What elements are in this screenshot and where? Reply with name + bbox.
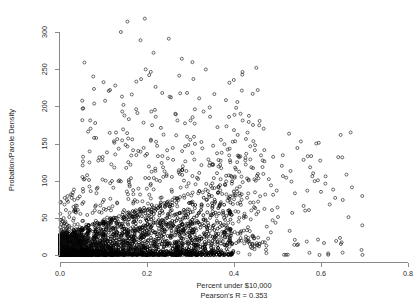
data-point: [161, 155, 164, 158]
data-point: [97, 159, 100, 162]
data-point: [174, 113, 177, 116]
data-point: [88, 178, 91, 181]
data-point: [193, 122, 196, 125]
data-point: [142, 146, 145, 149]
data-point: [293, 238, 296, 241]
data-point: [361, 253, 364, 256]
data-point: [263, 241, 266, 244]
data-point: [350, 186, 353, 189]
data-point: [302, 158, 305, 161]
data-point: [82, 178, 85, 181]
data-point: [144, 176, 147, 179]
data-point: [170, 175, 173, 178]
data-point: [184, 160, 187, 163]
data-point: [306, 189, 309, 192]
data-point: [296, 146, 299, 149]
data-point: [271, 219, 274, 222]
data-point: [159, 126, 162, 129]
data-point: [245, 229, 248, 232]
data-point: [215, 215, 218, 218]
data-point: [225, 125, 228, 128]
data-point: [147, 202, 150, 205]
data-point: [249, 158, 252, 161]
data-point: [162, 175, 165, 178]
data-point: [130, 154, 133, 157]
data-point: [102, 81, 105, 84]
data-point: [191, 116, 194, 119]
data-point: [231, 222, 234, 225]
data-point: [212, 144, 215, 147]
data-point: [115, 131, 118, 134]
data-point: [252, 140, 255, 143]
y-tick-label: 50: [40, 214, 49, 222]
data-point: [216, 172, 219, 175]
data-point: [119, 31, 122, 34]
data-point: [137, 187, 140, 190]
data-point: [93, 102, 96, 105]
data-point: [186, 91, 189, 94]
data-point: [191, 61, 194, 64]
data-point: [141, 215, 144, 218]
data-point: [225, 193, 228, 196]
data-point: [218, 212, 221, 215]
data-point: [247, 192, 250, 195]
data-point: [131, 138, 134, 141]
data-point: [341, 251, 344, 254]
data-point: [175, 201, 178, 204]
data-point: [132, 193, 135, 196]
data-point: [198, 97, 201, 100]
data-point: [149, 197, 152, 200]
data-point: [332, 188, 335, 191]
data-point: [81, 160, 84, 163]
data-point: [212, 177, 215, 180]
data-point: [167, 37, 170, 40]
data-point: [240, 198, 243, 201]
data-point: [319, 159, 322, 162]
data-point: [114, 84, 117, 87]
data-point: [143, 17, 146, 20]
data-point: [257, 177, 260, 180]
data-point: [219, 189, 222, 192]
data-point: [201, 147, 204, 150]
data-point: [293, 243, 296, 246]
data-point: [191, 191, 194, 194]
data-point: [120, 95, 123, 98]
data-point: [249, 218, 252, 221]
data-point: [106, 216, 109, 219]
data-point: [233, 129, 236, 132]
data-point: [228, 159, 231, 162]
data-point: [184, 122, 187, 125]
data-point: [238, 216, 241, 219]
data-point: [62, 217, 65, 220]
data-point: [132, 189, 135, 192]
data-point: [124, 143, 127, 146]
data-point: [293, 192, 296, 195]
data-point: [259, 154, 262, 157]
data-point: [98, 156, 101, 159]
data-point: [228, 154, 231, 157]
data-point: [221, 192, 224, 195]
data-point: [184, 145, 187, 148]
data-point: [141, 200, 144, 203]
data-point: [181, 165, 184, 168]
data-point: [339, 133, 342, 136]
data-point: [150, 110, 153, 113]
data-point: [76, 223, 79, 226]
data-point: [73, 223, 76, 226]
x-tick-label: 0.4: [229, 269, 239, 278]
data-point: [349, 131, 352, 134]
data-point: [72, 188, 75, 191]
data-point: [285, 176, 288, 179]
data-point: [163, 170, 166, 173]
data-point: [176, 205, 179, 208]
data-point: [145, 187, 148, 190]
data-point: [101, 155, 104, 158]
data-point: [105, 151, 108, 154]
data-point: [175, 134, 178, 137]
y-tick-label: 0: [40, 253, 49, 257]
data-point: [136, 112, 139, 115]
y-tick-label: 100: [40, 175, 49, 187]
data-point: [166, 149, 169, 152]
x-axis-ticks: 0.00.20.40.60.8: [55, 263, 413, 279]
data-point: [125, 166, 128, 169]
